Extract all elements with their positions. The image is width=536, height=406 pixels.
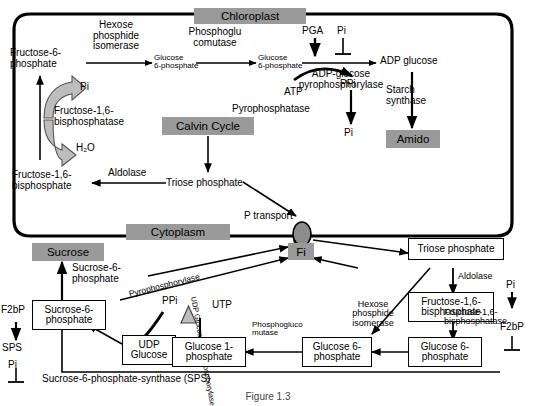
enzyme-phosphoglucomutase: Phosphoglu comutase — [176, 27, 254, 48]
metabolite-atp: ATP — [284, 87, 303, 98]
metabolite-pga: PGA — [302, 26, 323, 37]
chloroplast-label: Chloroplast — [194, 8, 306, 24]
sucrose-label: Sucrose — [32, 243, 104, 261]
metabolite-glucose-6-phosphate-a: Glucose 6-phosphate — [154, 54, 216, 71]
regulator-f2bp-left: F2bP — [1, 305, 25, 316]
amido-label: Amido — [386, 130, 440, 148]
box-udp-glucose: UDP Glucose — [122, 335, 176, 365]
box-sucrose-6-phosphate: Sucrose-6- phosphate — [32, 300, 106, 330]
metabolite-adp-glucose: ADP glucose — [380, 56, 438, 67]
p-transport-label: P transport — [244, 211, 293, 222]
metabolite-triose-phosphate-chloroplast: Triose phosphate — [166, 178, 243, 189]
metabolite-pi-fbpase-cytoplasm: Pi — [506, 280, 515, 291]
regulator-sps: SPS — [2, 343, 22, 354]
metabolite-utp: UTP — [212, 300, 232, 311]
metabolite-fructose-6-phosphate: Fructose-6- phosphate — [10, 48, 86, 69]
box-glucose-1-phosphate: Glucose 1-phosphate — [172, 337, 246, 367]
enzyme-hexose-phosphide-isomerase-cytoplasm: Hexose phosphide isomerase — [340, 300, 406, 328]
metabolite-water: H₂O — [76, 143, 95, 154]
figure-caption: Figure 1.3 — [218, 392, 318, 403]
enzyme-sucrose-6-phosphate-synthase: Sucrose-6-phosphate-synthase (SPS) — [42, 374, 210, 385]
box-triose-phosphate-cytoplasm: Triose phosphate — [408, 238, 504, 260]
metabolite-pi-from-ppi: Pi — [344, 128, 353, 139]
enzyme-aldolase-chloroplast: Aldolase — [108, 168, 146, 179]
fi-label: Fi — [288, 243, 314, 260]
enzyme-hexose-phosphide-isomerase: Hexose phosphide isomerase — [76, 20, 156, 52]
enzyme-pyrophosphatase: Pyrophosphatase — [232, 104, 310, 115]
regulator-pi-left: Pi — [8, 360, 17, 371]
box-glucose-6-phosphate-cytoplasm: Glucose 6-phosphate — [302, 337, 372, 367]
cytoplasm-label: Cytoplasm — [126, 224, 230, 240]
regulator-f2bp-right: F2bP — [500, 322, 524, 333]
metabolite-ppi-chloroplast: PPi — [340, 79, 356, 90]
metabolite-ppi-cytoplasm: PPi — [162, 296, 178, 307]
metabolite-pi-fbpase-chloroplast: Pi — [80, 82, 89, 93]
enzyme-aldolase-cytoplasm: Aldolase — [458, 272, 493, 281]
metabolite-sucrose-6-phosphate-label: Sucrose-6- phosphate — [72, 263, 150, 284]
box-glucose-6-phosphate-right: Glucose 6-phosphate — [408, 337, 482, 367]
enzyme-starch-synthase: Starch synthase — [386, 85, 442, 106]
enzyme-phosphogluco-mutase: Phosphogluco mutase — [252, 321, 314, 338]
metabolite-pi-agpase-inhibitor: Pi — [337, 26, 346, 37]
enzyme-fructose-1-6-bisphosphatase-chloroplast: Fructose-1,6- bisphosphatase — [54, 106, 146, 127]
calvin-cycle-label: Calvin Cycle — [162, 117, 254, 135]
metabolite-fructose-1-6-bisphosphate-chloroplast: Fructose-1,6- bisphosphate — [12, 170, 98, 191]
